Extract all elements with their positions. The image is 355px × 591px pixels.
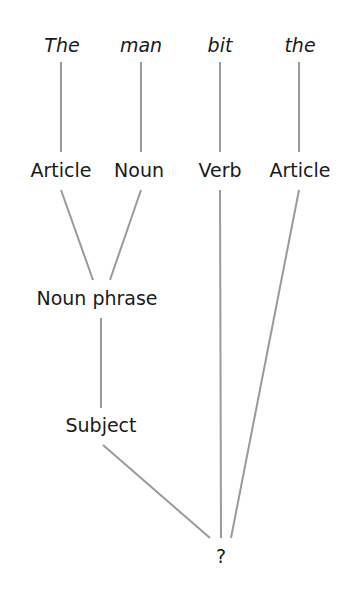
word-the: The xyxy=(44,36,79,55)
pos-verb: Verb xyxy=(198,161,241,180)
edge-line xyxy=(220,190,221,538)
edge-line xyxy=(103,445,210,538)
word-the-2: the xyxy=(284,36,315,55)
node-root-unknown: ? xyxy=(216,547,226,566)
node-noun-phrase: Noun phrase xyxy=(36,289,157,308)
node-subject: Subject xyxy=(65,416,136,435)
pos-noun: Noun xyxy=(114,161,164,180)
pos-article-2: Article xyxy=(270,161,331,180)
edge-line xyxy=(61,190,93,280)
edge-line xyxy=(231,190,299,538)
word-bit: bit xyxy=(208,36,233,55)
edge-line xyxy=(110,190,141,280)
word-man: man xyxy=(120,36,162,55)
pos-article: Article xyxy=(31,161,92,180)
